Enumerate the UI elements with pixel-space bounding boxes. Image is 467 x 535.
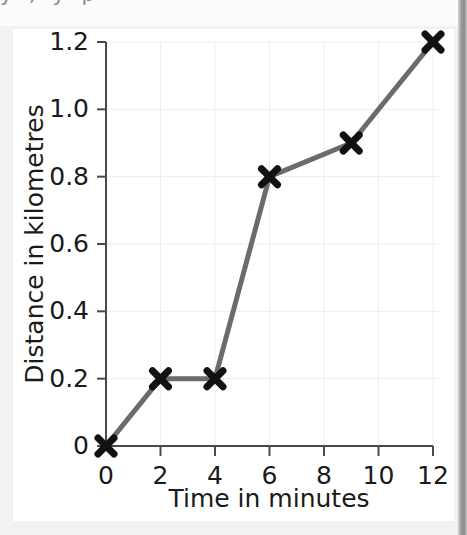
- x-axis-title: Time in minutes: [167, 484, 369, 513]
- y-tick-label: 0.2: [49, 364, 89, 393]
- y-tick-label: 0: [73, 431, 89, 460]
- chart-figure-card: 00.20.40.60.81.01.2 024681012 Time in mi…: [13, 29, 454, 521]
- y-axis-ticks: [97, 42, 106, 446]
- x-tick-label: 12: [417, 461, 449, 490]
- page-edge-shadow: [458, 0, 467, 535]
- x-tick-label: 2: [153, 461, 169, 490]
- y-tick-label: 0.4: [49, 296, 89, 325]
- cropped-text-glyphs: y , y p: [0, 0, 467, 6]
- y-tick-label: 1.0: [49, 94, 89, 123]
- scan-page-background: y , y p 00.20.40.60.81.01.2 024681012 Ti…: [0, 0, 467, 535]
- y-axis-title: Distance in kilometres: [20, 104, 49, 383]
- y-tick-label: 0.6: [49, 229, 89, 258]
- y-axis-tick-labels: 00.20.40.60.81.01.2: [49, 29, 89, 460]
- x-axis-ticks: [161, 446, 434, 456]
- y-tick-label: 0.8: [49, 162, 89, 191]
- y-tick-label: 1.2: [49, 29, 89, 56]
- cropped-text-sliver: y , y p: [0, 0, 467, 26]
- line-chart: 00.20.40.60.81.01.2 024681012 Time in mi…: [13, 29, 454, 521]
- x-tick-label: 0: [98, 461, 114, 490]
